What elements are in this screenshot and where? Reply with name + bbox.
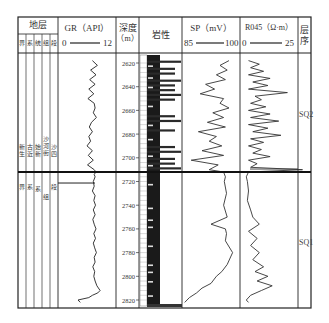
depth-label: 2720: [122, 178, 135, 185]
depth-label: 2680: [122, 131, 135, 138]
depth-label: 2820: [122, 297, 135, 304]
sequence-label-sq2: SQ2: [299, 110, 313, 119]
strata-system: 古近: [26, 144, 34, 158]
strata-system-suffix: 系: [26, 184, 34, 191]
gr-title: GR（API）: [58, 23, 116, 33]
sp-min: 85: [184, 38, 193, 48]
lithology-column: [140, 55, 182, 307]
strata-member: 沙四: [50, 144, 58, 158]
strata-member-suffix: 段: [50, 184, 58, 191]
depth-label: 2780: [122, 249, 135, 256]
r045-max: 25: [285, 38, 294, 48]
depth-label: 2800: [122, 273, 135, 280]
depth-unit: （m）: [116, 34, 139, 44]
strata-era: 新生: [18, 144, 26, 158]
sequence-label-sq1: SQ1: [299, 238, 313, 247]
strata-col-label: 系: [26, 40, 34, 47]
strata-era-suffix: 界: [18, 184, 26, 191]
r045-min: 0: [242, 38, 247, 48]
gr-min: 0: [62, 38, 67, 48]
strata-title: 地层: [18, 20, 58, 30]
strata-formation-suffix: 组: [42, 194, 50, 201]
depth-label: 2740: [122, 202, 135, 209]
well-log-chart: 2620264026602680270027202740276027802800…: [0, 0, 329, 323]
gr-curve: [78, 61, 100, 303]
depth-title: 深度: [116, 23, 139, 33]
depth-label: 2640: [122, 83, 135, 90]
depth-label: 2660: [122, 107, 135, 114]
depth-ticks: 2620264026602680270027202740276027802800…: [122, 60, 139, 304]
depth-label: 2620: [122, 60, 135, 67]
strata-col-label: 段: [50, 40, 58, 47]
r045-curve: [246, 61, 302, 303]
strata-series-suffix: 系: [34, 186, 42, 193]
strata-col-label: 组: [42, 40, 50, 47]
sequence-title-1: 层: [298, 25, 311, 35]
depth-label: 2760: [122, 225, 135, 232]
strata-series: 始新: [34, 144, 42, 158]
sp-title: SP（mV）: [182, 23, 240, 33]
gr-max: 12: [103, 38, 112, 48]
sequence-title-2: 序: [298, 36, 311, 46]
strata-col-label: 界: [18, 40, 26, 47]
lithology-title: 岩性: [139, 30, 182, 40]
sp-curve: [185, 61, 233, 303]
strata-formation: 沙河街: [42, 136, 50, 157]
depth-label: 2700: [122, 154, 135, 161]
sp-max: 100: [225, 38, 239, 48]
r045-title: R045（Ω·m）: [240, 23, 298, 33]
strata-col-label: 统: [34, 40, 42, 47]
